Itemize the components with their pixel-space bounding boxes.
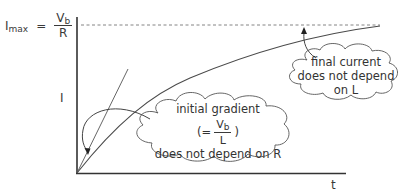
note-line: does not depend on R bbox=[148, 148, 288, 162]
note-line: final current bbox=[296, 56, 396, 70]
x-axis-label: t bbox=[331, 179, 336, 190]
initial-gradient-note: initial gradient (= Vb L ) does not depe… bbox=[148, 103, 288, 162]
final-current-note: final current does not depend on L bbox=[296, 56, 396, 97]
vb-letter: V bbox=[216, 118, 224, 131]
imax-subscript: max bbox=[9, 24, 29, 34]
initial-gradient-tangent bbox=[77, 69, 128, 173]
fraction-denominator: L bbox=[220, 133, 226, 147]
arrowhead-icon bbox=[301, 27, 307, 34]
note-line: on L bbox=[296, 84, 396, 98]
imax-formula: Imax = Vb R bbox=[5, 12, 72, 39]
y-axis-label: I bbox=[60, 92, 64, 104]
vb-over-l-fraction: Vb L bbox=[214, 118, 231, 147]
vb-subscript: b bbox=[224, 122, 230, 132]
note-line: does not depend bbox=[296, 70, 396, 84]
fraction-numerator: Vb bbox=[54, 12, 72, 26]
imax-symbol: Imax bbox=[5, 20, 28, 32]
vb-subscript: b bbox=[64, 16, 70, 26]
paren-open: (= bbox=[197, 126, 211, 140]
note-line: initial gradient bbox=[148, 103, 288, 117]
vb-over-r-fraction: Vb R bbox=[54, 12, 72, 39]
paren-close: ) bbox=[234, 126, 239, 140]
fraction-numerator: Vb bbox=[214, 118, 231, 133]
equals-sign: = bbox=[36, 20, 46, 32]
fraction-denominator: R bbox=[59, 26, 67, 39]
gradient-expression: (= Vb L ) bbox=[148, 118, 288, 147]
arrowhead-icon bbox=[85, 148, 91, 155]
